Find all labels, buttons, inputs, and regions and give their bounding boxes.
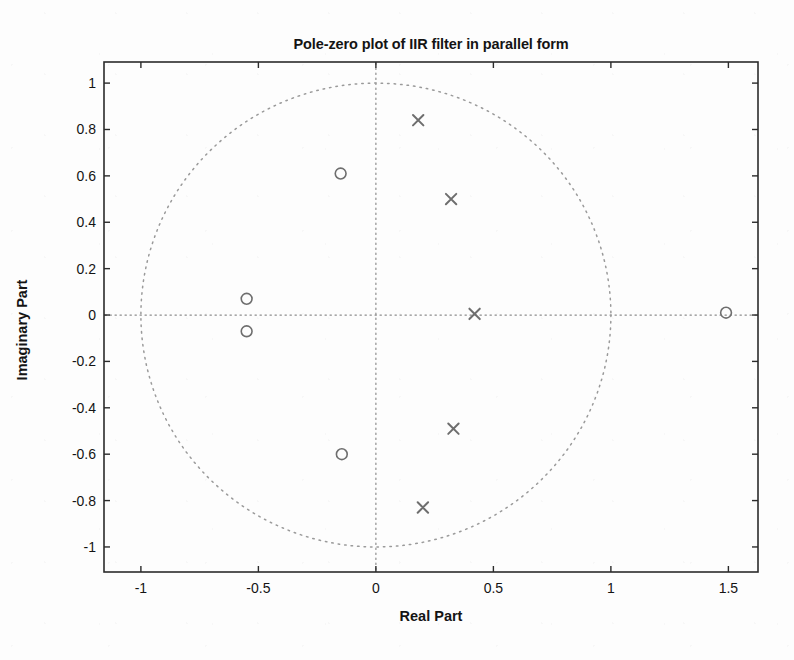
pole-zero-plot [0,0,794,660]
y-tick-label-10: 1 [88,75,96,91]
y-axis-label: Imaginary Part [14,0,42,660]
plot-frame [104,62,758,572]
x-tick-label-0: -1 [135,580,147,596]
zero-marker-1[interactable] [241,293,252,304]
y-tick-label-9: 0.8 [77,121,96,137]
pole-marker-2[interactable] [469,309,479,319]
zero-marker-4[interactable] [721,307,732,318]
zero-marker-3[interactable] [336,449,347,460]
zero-marker-0[interactable] [335,168,346,179]
x-tick-label-5: 1.5 [719,580,738,596]
y-tick-label-4: -0.2 [72,353,96,369]
y-tick-label-0: -1 [84,539,96,555]
y-tick-label-6: 0.2 [77,261,96,277]
x-tick-label-4: 1 [607,580,615,596]
y-tick-label-1: -0.8 [72,493,96,509]
x-tick-label-2: 0 [372,580,380,596]
x-axis-label: Real Part [104,608,758,624]
y-tick-label-8: 0.6 [77,168,96,184]
x-tick-label-3: 0.5 [484,580,503,596]
y-tick-label-7: 0.4 [77,214,96,230]
pole-marker-0[interactable] [413,115,423,125]
pole-marker-4[interactable] [418,502,428,512]
y-tick-label-5: 0 [88,307,96,323]
figure-canvas: Pole-zero plot of IIR filter in parallel… [0,0,794,660]
x-tick-label-1: -0.5 [246,580,270,596]
y-tick-label-3: -0.4 [72,400,96,416]
zero-marker-2[interactable] [241,326,252,337]
y-tick-label-2: -0.6 [72,446,96,462]
pole-marker-1[interactable] [446,194,456,204]
pole-marker-3[interactable] [448,423,458,433]
